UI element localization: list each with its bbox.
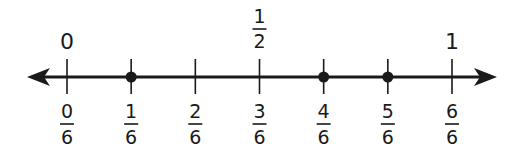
plotted-point [126, 72, 137, 83]
bottom-fraction-label: 36 [253, 100, 267, 148]
plotted-point [382, 72, 393, 83]
denominator: 6 [446, 126, 458, 148]
numerator: 2 [189, 100, 201, 122]
numerator: 1 [253, 5, 265, 27]
denominator: 6 [382, 126, 394, 148]
denominator: 6 [125, 126, 137, 148]
top-label: 1 [445, 29, 459, 54]
numerator: 1 [125, 100, 137, 122]
bottom-fraction-label: 26 [188, 100, 202, 148]
numerator: 3 [253, 100, 265, 122]
number-line: 0121 06162636465666 [0, 0, 515, 159]
denominator: 6 [253, 126, 265, 148]
bottom-fraction-label: 56 [381, 100, 395, 148]
top-fraction-label: 12 [253, 5, 267, 52]
numerator: 4 [318, 100, 330, 122]
denominator: 6 [318, 126, 330, 148]
plotted-point [318, 72, 329, 83]
numerator: 6 [446, 100, 458, 122]
denominator: 6 [61, 126, 73, 148]
numerator: 0 [61, 100, 73, 122]
denominator: 2 [253, 30, 265, 52]
top-label: 0 [60, 29, 74, 54]
bottom-fraction-label: 46 [317, 100, 331, 148]
bottom-fraction-label: 66 [445, 100, 459, 148]
bottom-fraction-label: 16 [124, 100, 138, 148]
bottom-fraction-label: 06 [60, 100, 74, 148]
denominator: 6 [189, 126, 201, 148]
numerator: 5 [382, 100, 394, 122]
